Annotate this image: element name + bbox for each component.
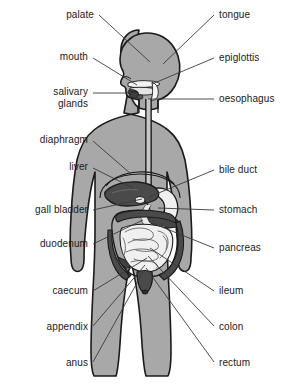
- label-colon: colon: [219, 321, 243, 333]
- label-palate: palate: [66, 9, 94, 21]
- label-oesophagus: oesophagus: [219, 93, 275, 105]
- label-liver: liver: [69, 161, 88, 173]
- label-epiglottis: epiglottis: [219, 52, 259, 64]
- label-appendix: appendix: [47, 321, 88, 333]
- anus-structure: [142, 290, 148, 294]
- label-ileum: ileum: [219, 285, 243, 297]
- digestive-system-diagram: palatemouthsalivary glandsdiaphragmliver…: [0, 0, 289, 392]
- label-pancreas: pancreas: [219, 242, 261, 254]
- label-caecum: caecum: [52, 285, 88, 297]
- leader-line-tongue: [163, 15, 214, 64]
- label-duodenum: duodenum: [40, 238, 88, 250]
- label-tongue: tongue: [219, 9, 250, 21]
- label-rectum: rectum: [219, 357, 250, 369]
- label-mouth: mouth: [60, 51, 88, 63]
- label-salivary-glands: salivary glands: [53, 86, 88, 109]
- label-gall-bladder: gall bladder: [35, 204, 88, 216]
- label-anus: anus: [66, 357, 88, 369]
- label-bile-duct: bile duct: [219, 164, 257, 176]
- label-diaphragm: diaphragm: [40, 134, 88, 146]
- label-stomach: stomach: [219, 204, 258, 216]
